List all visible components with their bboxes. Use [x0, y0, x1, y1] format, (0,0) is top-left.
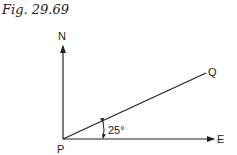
- label-north: N: [58, 30, 66, 42]
- label-q: Q: [208, 66, 217, 78]
- bearing-diagram: N E P Q 25°: [0, 0, 237, 155]
- label-origin: P: [57, 143, 64, 155]
- angle-arc: [103, 122, 104, 138]
- label-east: E: [217, 133, 224, 145]
- line-pq: [63, 73, 206, 139]
- label-angle: 25°: [108, 124, 125, 136]
